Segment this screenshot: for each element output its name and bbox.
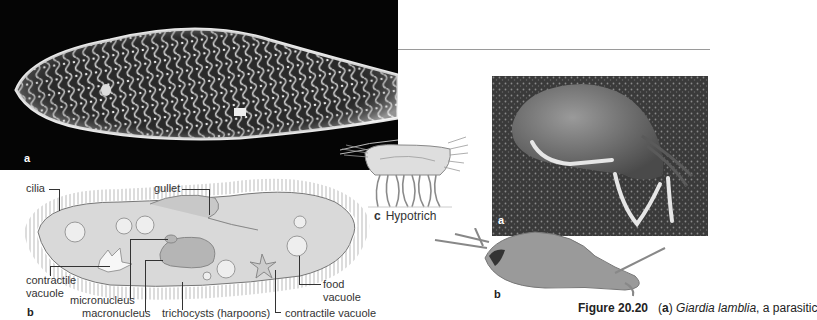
giardia-illustration [425,228,675,298]
label-micronucleus: micronucleus [70,294,135,306]
leader-cv-left-h [50,266,110,267]
label-trichocysts: trichocysts (harpoons) [162,307,270,319]
caption-species: Giardia lamblia [676,301,756,315]
leader-cv-right-v [275,270,276,312]
leader-micronucleus-v [130,239,131,299]
paramecium-sem-image [0,0,398,170]
giardia-sem-photo: a [492,76,708,236]
leader-food-h [299,284,321,285]
leader-gullet-h [182,189,209,190]
hypotrich-label-text: Hypotrich [386,209,437,223]
label-contractile-vacuole-left-1: contractile [26,274,76,286]
panel-letter-a-giardia: a [498,214,504,226]
caption-panel-ref: (a) [658,301,676,315]
hypotrich-caption: cHypotrich [374,209,436,223]
section-rule [398,49,710,50]
leader-cilia-h [49,189,59,190]
leader-cilia-v [59,189,60,211]
leader-micronucleus-h [130,239,168,240]
giardia-sem-image [492,76,708,236]
figure-number: Figure 20.20 [578,301,648,315]
panel-letter-b: b [27,306,34,318]
label-contractile-vacuole-left-2: vacuole [26,287,64,299]
caption-text: , a parasitic [756,301,817,315]
label-cilia: cilia [26,182,45,194]
panel-letter-c: c [374,209,381,223]
figure-caption: Figure 20.20(a) Giardia lamblia, a paras… [578,301,817,315]
label-food-vacuole-1: food [323,278,344,290]
leader-trichocysts-v [182,282,183,310]
label-gullet: gullet [154,182,180,194]
leader-food-v [299,256,300,284]
leader-macronucleus-h [145,260,163,261]
panel-letter-b-giardia: b [494,288,501,300]
label-macronucleus: macronucleus [82,307,150,319]
panel-letter-a: a [24,152,30,164]
leader-cv-right-h [275,312,281,313]
label-food-vacuole-2: vacuole [323,291,361,303]
giardia-drawing [425,228,675,298]
leader-gullet-v [209,189,210,215]
leader-macronucleus-v [145,260,146,312]
paramecium-sem-photo: a [0,0,398,170]
label-contractile-vacuole-right: contractile vacuole [285,307,376,319]
